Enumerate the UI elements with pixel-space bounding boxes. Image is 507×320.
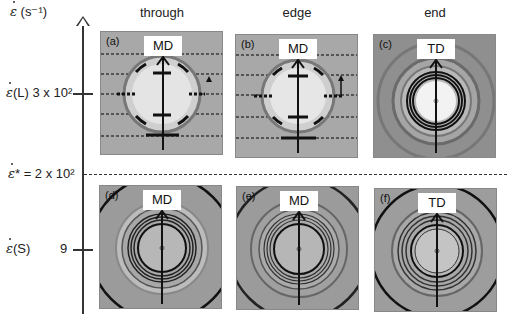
axis-arrow-icon: [76, 16, 90, 26]
direction-label: MD: [280, 191, 318, 211]
panel-label: (a): [106, 35, 119, 47]
panel-label: (d): [105, 189, 118, 201]
label-large-rate: ε(L) 3 x 10²: [6, 85, 72, 100]
strain-rate-axis: [82, 22, 84, 314]
critical-rate-value: * = 2 x 10²: [15, 166, 75, 181]
small-rate-label: (S): [13, 241, 30, 256]
tick-large-rate: [73, 93, 93, 95]
saxs-panel-f: (f) TD: [374, 188, 497, 312]
panel-label: (e): [242, 190, 255, 202]
column-header-end: end: [373, 5, 497, 20]
label-small-rate: ε(S): [6, 241, 30, 256]
small-rate-value: 9: [60, 241, 67, 256]
panel-label: (b): [241, 38, 254, 50]
epsilon-dot-symbol: ε: [6, 85, 13, 100]
epsilon-dot-symbol: ε: [6, 241, 13, 256]
column-header-through: through: [100, 5, 224, 20]
panel-label: (f): [380, 192, 390, 204]
epsilon-dot-symbol: ε: [8, 166, 15, 181]
saxs-panel-a: (a) MD: [100, 31, 223, 155]
direction-label: MD: [144, 36, 182, 56]
column-header-edge: edge: [235, 5, 359, 20]
axis-title: ε (s⁻¹): [10, 4, 47, 19]
tick-small-rate: [73, 249, 93, 251]
direction-label: MD: [279, 39, 317, 59]
saxs-panel-d: (d) MD: [99, 185, 222, 309]
saxs-panel-b: (b) MD: [235, 34, 358, 158]
saxs-panel-c: (c) TD: [373, 34, 496, 158]
direction-label: TD: [418, 193, 456, 213]
axis-unit: (s⁻¹): [21, 4, 48, 19]
critical-rate-dashed-line: [84, 174, 507, 175]
direction-label: MD: [143, 190, 181, 210]
direction-label: TD: [417, 39, 455, 59]
panel-label: (c): [379, 38, 392, 50]
label-critical-rate: ε* = 2 x 10²: [8, 166, 75, 181]
epsilon-dot-symbol: ε: [10, 4, 17, 19]
saxs-panel-e: (e) MD: [236, 186, 359, 310]
large-rate-value: (L) 3 x 10²: [13, 85, 72, 100]
